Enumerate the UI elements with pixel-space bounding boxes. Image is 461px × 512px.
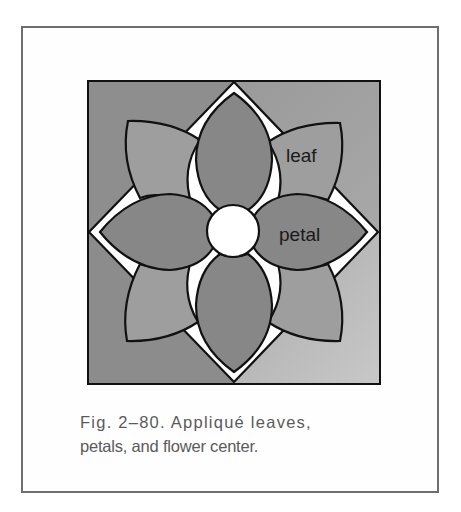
leaf-top-left bbox=[126, 121, 200, 205]
caption-line-2: petals, and flower center. bbox=[80, 434, 400, 458]
petal-label: petal bbox=[279, 224, 320, 245]
caption-line-1: Fig. 2–80. Appliqué leaves, bbox=[80, 410, 400, 434]
figure-caption: Fig. 2–80. Appliqué leaves, petals, and … bbox=[80, 410, 400, 458]
flower-center bbox=[207, 205, 259, 257]
leaf-label: leaf bbox=[286, 145, 317, 166]
